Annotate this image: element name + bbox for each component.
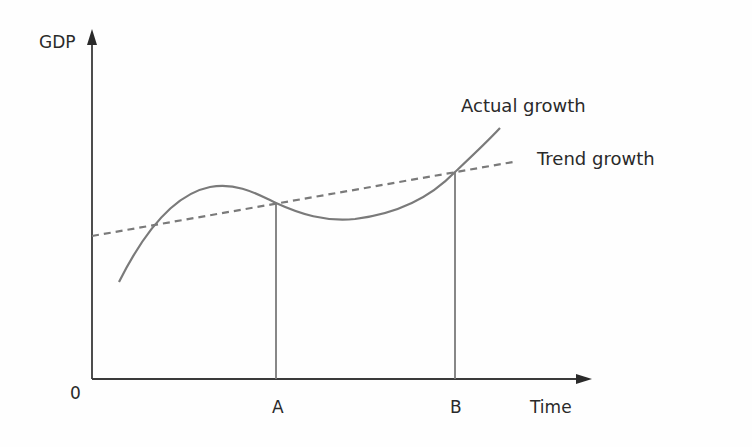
marker-a-label: A xyxy=(272,399,284,416)
actual-growth-label: Actual growth xyxy=(461,97,586,115)
marker-b-label: B xyxy=(450,399,462,416)
diagram-canvas: GDP Time 0 A B Actual growth Trend growt… xyxy=(0,0,752,447)
gdp-cycle-diagram xyxy=(0,0,752,447)
actual-growth-curve xyxy=(119,128,500,282)
y-axis-arrow-icon xyxy=(87,29,97,45)
origin-label: 0 xyxy=(70,385,81,402)
x-axis-arrow-icon xyxy=(576,374,592,384)
x-axis-label: Time xyxy=(530,399,572,416)
trend-growth-label: Trend growth xyxy=(537,150,655,168)
y-axis-label: GDP xyxy=(39,34,76,51)
